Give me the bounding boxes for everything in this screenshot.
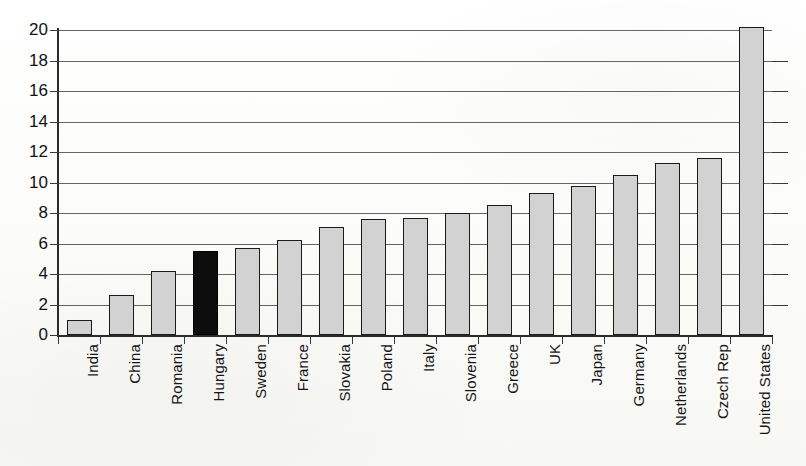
x-axis-tick [268, 337, 269, 344]
bar-netherlands[interactable] [655, 163, 680, 335]
gridline [58, 152, 772, 153]
y-axis-tick-label: 12 [18, 143, 48, 160]
bar-india[interactable] [67, 320, 92, 335]
x-label-japan: Japan [589, 344, 604, 385]
y-axis-tick [50, 183, 59, 184]
bar-chart: 02468101214161820 IndiaChinaRomaniaHunga… [0, 0, 806, 466]
right-edge-tick [772, 122, 788, 123]
bar-france[interactable] [277, 240, 302, 335]
bar-slovenia[interactable] [445, 213, 470, 335]
y-axis-tick-labels: 02468101214161820 [10, 0, 48, 466]
y-axis-tick [50, 335, 59, 336]
bar-germany[interactable] [613, 175, 638, 335]
y-axis-tick [50, 244, 59, 245]
x-label-czech-rep: Czech Rep [715, 344, 730, 419]
y-axis-tick [50, 30, 59, 31]
x-axis-tick [310, 337, 311, 344]
x-label-india: India [85, 344, 100, 377]
x-axis-tick [604, 337, 605, 344]
right-edge-tick [772, 305, 788, 306]
x-axis-tick [394, 337, 395, 344]
y-axis-tick [50, 213, 59, 214]
y-axis-tick-label: 4 [18, 265, 48, 282]
bar-uk[interactable] [529, 193, 554, 335]
y-axis-tick-label: 20 [18, 21, 48, 38]
right-edge-tick [772, 274, 788, 275]
gridline [58, 61, 772, 62]
x-axis-tick [100, 337, 101, 344]
y-axis-tick [50, 122, 59, 123]
y-axis-tick-label: 18 [18, 52, 48, 69]
x-label-romania: Romania [169, 344, 184, 405]
right-edge-tick [772, 244, 788, 245]
y-axis-tick-label: 10 [18, 174, 48, 191]
gridline [58, 122, 772, 123]
x-label-italy: Italy [421, 344, 436, 372]
bar-united-states[interactable] [739, 27, 764, 335]
y-axis-tick-label: 6 [18, 235, 48, 252]
x-label-sweden: Sweden [253, 344, 268, 399]
bar-china[interactable] [109, 295, 134, 335]
bar-italy[interactable] [403, 218, 428, 335]
x-axis-tick [436, 337, 437, 344]
bar-czech-rep[interactable] [697, 158, 722, 335]
y-axis-tick-label: 8 [18, 204, 48, 221]
x-axis-tick [730, 337, 731, 344]
y-axis-tick-label: 0 [18, 326, 48, 343]
x-label-france: France [295, 344, 310, 391]
right-edge-tick [772, 152, 788, 153]
y-axis-tick [50, 91, 59, 92]
x-axis-tick [688, 337, 689, 344]
gridline [58, 30, 772, 31]
bar-slovakia[interactable] [319, 227, 344, 335]
x-axis-tick [646, 337, 647, 344]
y-axis-tick [50, 152, 59, 153]
right-edge-tick [772, 183, 788, 184]
x-label-slovenia: Slovenia [463, 344, 478, 402]
x-label-netherlands: Netherlands [673, 344, 688, 426]
x-axis-tick [520, 337, 521, 344]
gridline [58, 91, 772, 92]
y-axis-tick-label: 14 [18, 113, 48, 130]
x-axis-tick [772, 337, 773, 344]
bar-romania[interactable] [151, 271, 176, 335]
bar-hungary[interactable] [193, 251, 218, 335]
x-label-uk: UK [547, 344, 562, 365]
x-axis-tick [226, 337, 227, 344]
x-label-slovakia: Slovakia [337, 344, 352, 402]
bar-japan[interactable] [571, 186, 596, 335]
x-label-china: China [127, 344, 142, 384]
y-axis-tick [50, 305, 59, 306]
x-axis-tick [562, 337, 563, 344]
y-axis-tick-label: 16 [18, 82, 48, 99]
y-axis-tick [50, 61, 59, 62]
x-label-greece: Greece [505, 344, 520, 394]
y-axis-tick [50, 274, 59, 275]
x-label-poland: Poland [379, 344, 394, 391]
right-edge-tick [772, 61, 788, 62]
bar-sweden[interactable] [235, 248, 260, 335]
x-label-hungary: Hungary [211, 344, 226, 401]
x-label-united-states: United States [757, 344, 772, 435]
x-axis-line [57, 335, 773, 337]
bar-poland[interactable] [361, 219, 386, 335]
y-axis-tick-label: 2 [18, 296, 48, 313]
right-edge-tick [772, 213, 788, 214]
right-edge-tick [772, 91, 788, 92]
x-label-germany: Germany [631, 344, 646, 406]
x-axis-tick [478, 337, 479, 344]
x-axis-tick [58, 337, 59, 344]
bar-greece[interactable] [487, 205, 512, 335]
